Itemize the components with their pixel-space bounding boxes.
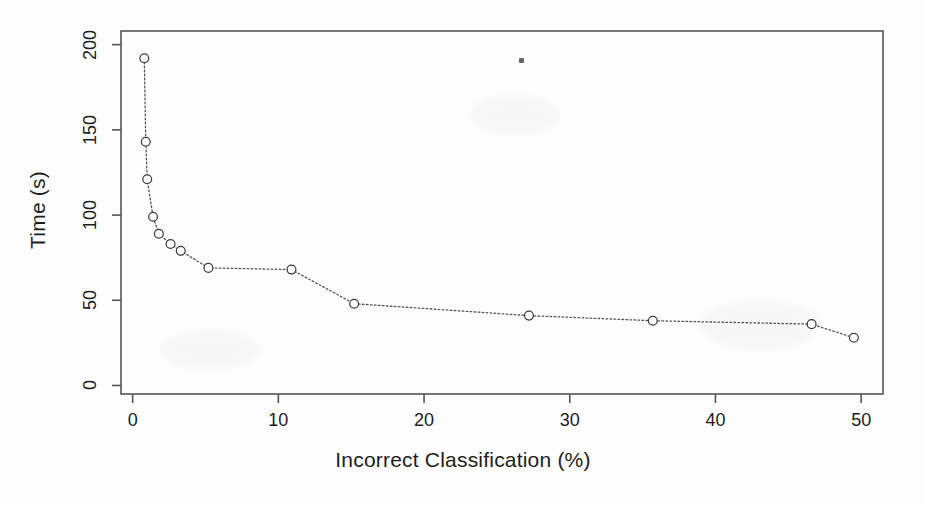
data-point-marker	[166, 240, 175, 249]
paper-smudge	[700, 300, 820, 350]
data-point-marker	[154, 229, 163, 238]
data-point-marker	[140, 54, 149, 63]
paper-smudge	[160, 330, 260, 370]
data-point-marker	[287, 265, 296, 274]
data-point-marker	[176, 246, 185, 255]
data-point-marker	[525, 311, 534, 320]
x-tick-label: 50	[851, 410, 871, 431]
x-tick-label: 40	[705, 410, 725, 431]
x-tick-label: 10	[268, 410, 288, 431]
data-point-marker	[149, 212, 158, 221]
y-tick-label: 0	[80, 380, 101, 390]
y-tick-label: 150	[80, 115, 101, 145]
x-tick-label: 20	[414, 410, 434, 431]
scan-speck-icon	[519, 58, 524, 63]
paper-smudge	[470, 95, 560, 135]
y-tick-label: 200	[80, 30, 101, 60]
data-point-marker	[141, 137, 150, 146]
data-point-marker	[143, 175, 152, 184]
data-point-marker	[350, 299, 359, 308]
data-point-marker	[849, 333, 858, 342]
y-tick-label: 50	[80, 290, 101, 310]
data-point-marker	[648, 316, 657, 325]
plot-area	[0, 0, 926, 505]
data-point-marker	[204, 263, 213, 272]
x-tick-label: 0	[128, 410, 138, 431]
chart-figure: Time (s) Incorrect Classification (%) 01…	[0, 0, 926, 505]
x-tick-label: 30	[560, 410, 580, 431]
y-tick-label: 100	[80, 200, 101, 230]
